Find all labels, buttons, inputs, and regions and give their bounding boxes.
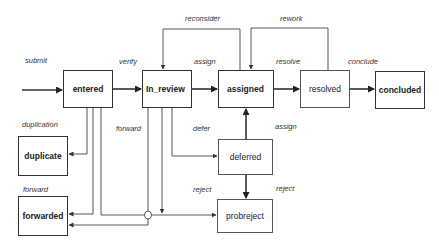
state-label: forwarded (22, 211, 63, 221)
label-duplication: duplication (22, 120, 58, 129)
arrow-duplication (69, 108, 87, 154)
state-label: assigned (227, 84, 264, 94)
label-reject-left: reject (193, 185, 211, 194)
label-assign-mid: assign (275, 122, 297, 131)
arrow-forward-entered (69, 108, 93, 214)
state-in-review[interactable]: In_review (142, 70, 192, 108)
state-label: resolved (309, 84, 341, 94)
label-resolve: resolve (276, 57, 300, 66)
label-submit: submit (25, 56, 47, 65)
state-label: In_review (146, 84, 185, 94)
label-reconsider: reconsider (185, 14, 220, 23)
state-label: entered (73, 84, 104, 94)
state-assigned[interactable]: assigned (218, 70, 274, 108)
label-assign: assign (194, 57, 216, 66)
state-resolved[interactable]: resolved (300, 70, 350, 108)
state-concluded[interactable]: concluded (375, 71, 425, 109)
state-label: deferred (230, 152, 262, 162)
label-conclude: conclude (348, 57, 378, 66)
state-deferred[interactable]: deferred (218, 139, 273, 175)
state-forwarded[interactable]: forwarded (18, 196, 68, 236)
label-verify: verify (119, 57, 137, 66)
state-probreject[interactable]: probreject (217, 199, 273, 233)
label-reject-right: reject (276, 184, 294, 193)
line-hop (145, 211, 152, 219)
state-duplicate[interactable]: duplicate (18, 136, 68, 176)
label-forward-mid: forward (116, 124, 141, 133)
label-rework: rework (280, 14, 303, 23)
state-label: concluded (379, 85, 422, 95)
state-label: probreject (226, 211, 264, 221)
state-label: duplicate (24, 151, 61, 161)
label-forward-left: forward (23, 185, 48, 194)
state-entered[interactable]: entered (63, 70, 113, 108)
label-defer: defer (193, 124, 210, 133)
